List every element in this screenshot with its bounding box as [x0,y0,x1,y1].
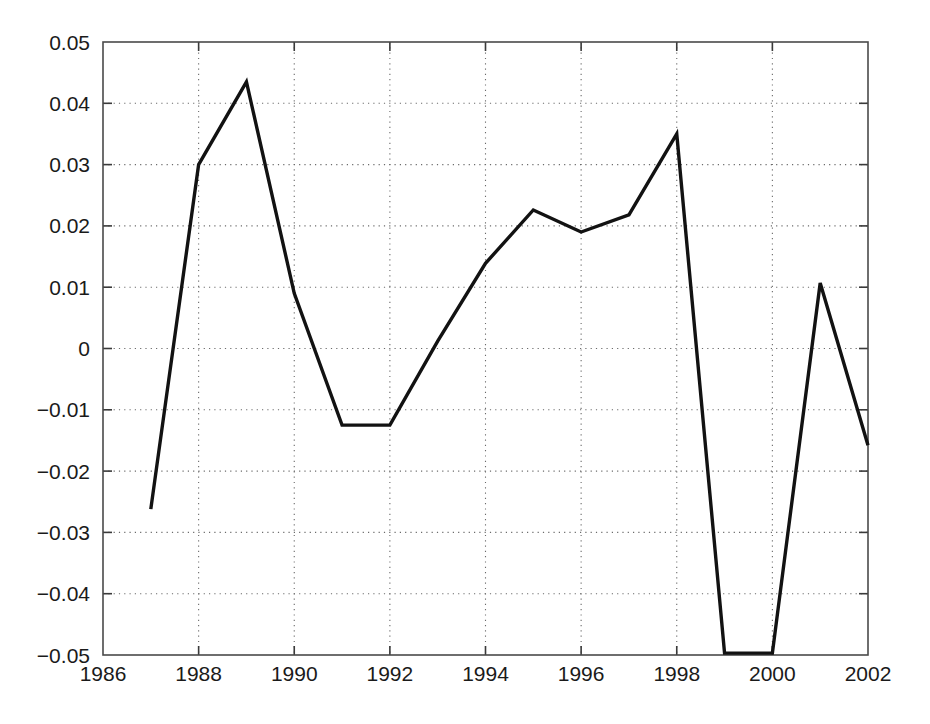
y-tick-label: 0.05 [49,31,90,54]
y-tick-label: 0.02 [49,214,90,237]
chart-figure: −0.05−0.04−0.03−0.02−0.0100.010.020.030.… [0,0,930,724]
x-tick-label: 1992 [367,662,414,685]
y-tick-label: 0.04 [49,92,90,115]
y-tick-label: −0.01 [37,398,90,421]
y-tick-label: 0.03 [49,153,90,176]
x-tick-label: 1994 [462,662,509,685]
x-tick-label: 2002 [845,662,892,685]
x-tick-label: 1986 [80,662,127,685]
line-chart: −0.05−0.04−0.03−0.02−0.0100.010.020.030.… [0,0,930,724]
x-axis-tick-labels: 198619881990199219941996199820002002 [80,662,892,685]
y-tick-label: 0 [78,337,90,360]
y-axis-tick-labels: −0.05−0.04−0.03−0.02−0.0100.010.020.030.… [37,31,90,667]
x-tick-label: 1998 [653,662,700,685]
y-tick-label: −0.03 [37,521,90,544]
x-tick-label: 1990 [271,662,318,685]
data-series-line [151,82,868,653]
x-tick-label: 2000 [749,662,796,685]
y-tick-label: −0.02 [37,460,90,483]
y-tick-label: −0.04 [37,582,90,605]
x-tick-label: 1988 [175,662,222,685]
x-tick-label: 1996 [558,662,605,685]
y-tick-label: 0.01 [49,276,90,299]
